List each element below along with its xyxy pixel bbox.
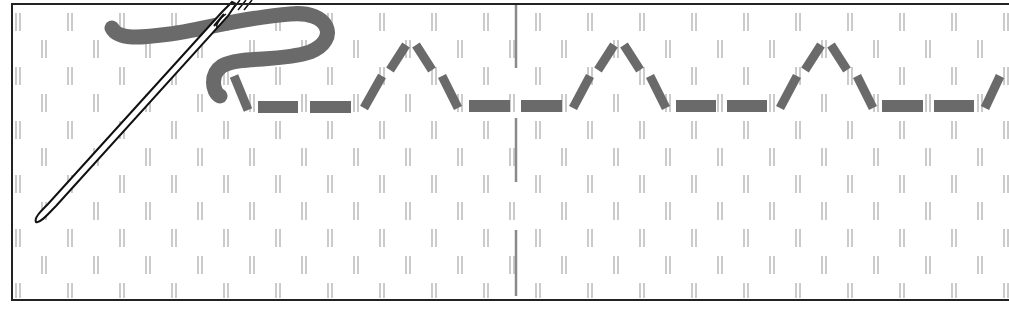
diagram-canvas: [0, 0, 1009, 312]
zigzag-stitches: [234, 45, 1000, 113]
fabric-grid-marks: [16, 13, 1008, 298]
stitch-diagram: [0, 0, 1009, 312]
